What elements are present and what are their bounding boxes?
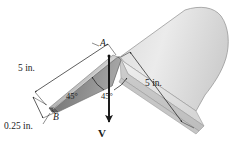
label-thickness: 0.25 in. (4, 122, 33, 132)
leader-point-a (92, 43, 99, 46)
figure-drawing (0, 0, 245, 147)
dimension-line-thickness (33, 97, 43, 118)
label-point-b: B (53, 113, 59, 123)
wedge-side-face (52, 57, 121, 112)
extension-tick-b-left (35, 92, 46, 105)
label-point-a: A (100, 39, 106, 49)
leader-thickness (43, 113, 50, 124)
label-length-left: 5 in. (18, 64, 35, 74)
plate-body (119, 7, 228, 134)
label-angle-left: 45° (66, 92, 78, 101)
wedge-figure: 5 in. 5 in. 0.25 in. 45° 45° A B V (0, 0, 245, 147)
wedge-body (49, 55, 121, 112)
extension-tick-a-left (108, 44, 116, 55)
label-angle-right: 45° (101, 92, 113, 101)
label-length-right: 5 in. (145, 79, 162, 89)
label-force-v: V (98, 128, 106, 139)
plate-top-face (120, 7, 228, 111)
